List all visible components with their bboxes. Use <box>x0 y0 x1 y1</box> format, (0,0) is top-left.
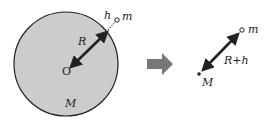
mass-M-dot <box>197 72 201 76</box>
object-m-dot <box>240 28 244 32</box>
gravity-diagram: O R h m M m R+h M <box>0 0 276 126</box>
center-label: O <box>62 65 71 78</box>
height-segment <box>108 22 115 30</box>
distance-label: R+h <box>223 54 249 67</box>
object-label: m <box>122 10 132 23</box>
height-label: h <box>104 9 111 22</box>
planet-diagram: O R h m M <box>14 9 132 116</box>
point-mass-diagram: m R+h M <box>197 23 258 89</box>
right-arrow-icon <box>147 53 173 75</box>
object-m-dot <box>115 18 119 22</box>
object-label: m <box>248 23 258 36</box>
radius-label: R <box>77 35 86 48</box>
planet-mass-label: M <box>64 97 77 110</box>
planet-mass-label: M <box>201 76 214 89</box>
